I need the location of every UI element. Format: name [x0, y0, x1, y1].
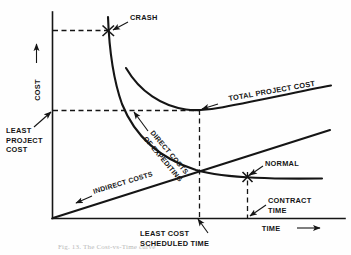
reference-lines-group	[53, 31, 248, 219]
least-project-cost-label-line3: COST	[6, 145, 28, 154]
y-axis-label: COST	[33, 79, 42, 101]
direct-costs-curve	[108, 17, 322, 179]
indirect-costs-leader-arrow-icon	[76, 196, 92, 203]
contract-time-leader-arrow-icon	[250, 205, 266, 216]
least-project-cost-leader-arrow-icon	[34, 112, 51, 127]
least-cost-time-leader-arrow-icon	[198, 219, 208, 233]
normal-label: NORMAL	[265, 159, 299, 168]
cost-time-chart: COST TIME CRASH LEAST PROJECT COST TOTAL…	[0, 0, 351, 255]
figure-caption: Fig. 13. The Cost-vs-Time curve	[58, 243, 156, 251]
crash-label: CRASH	[130, 13, 158, 22]
cost-time-figure: COST TIME CRASH LEAST PROJECT COST TOTAL…	[0, 0, 351, 255]
leader-lines-group	[34, 22, 266, 233]
contract-time-label-line2: TIME	[268, 206, 287, 215]
indirect-costs-label: INDIRECT COSTS	[92, 170, 153, 195]
least-project-cost-label-line1: LEAST	[6, 126, 32, 135]
crash-leader-arrow-icon	[113, 22, 128, 30]
least-cost-scheduled-time-label-line1: LEAST COST	[140, 229, 190, 238]
contract-time-label-line1: CONTRACT	[268, 196, 312, 205]
normal-leader-arrow-icon	[250, 166, 263, 175]
x-axis-label: TIME	[262, 224, 281, 233]
least-project-cost-label-line2: PROJECT	[6, 136, 43, 145]
